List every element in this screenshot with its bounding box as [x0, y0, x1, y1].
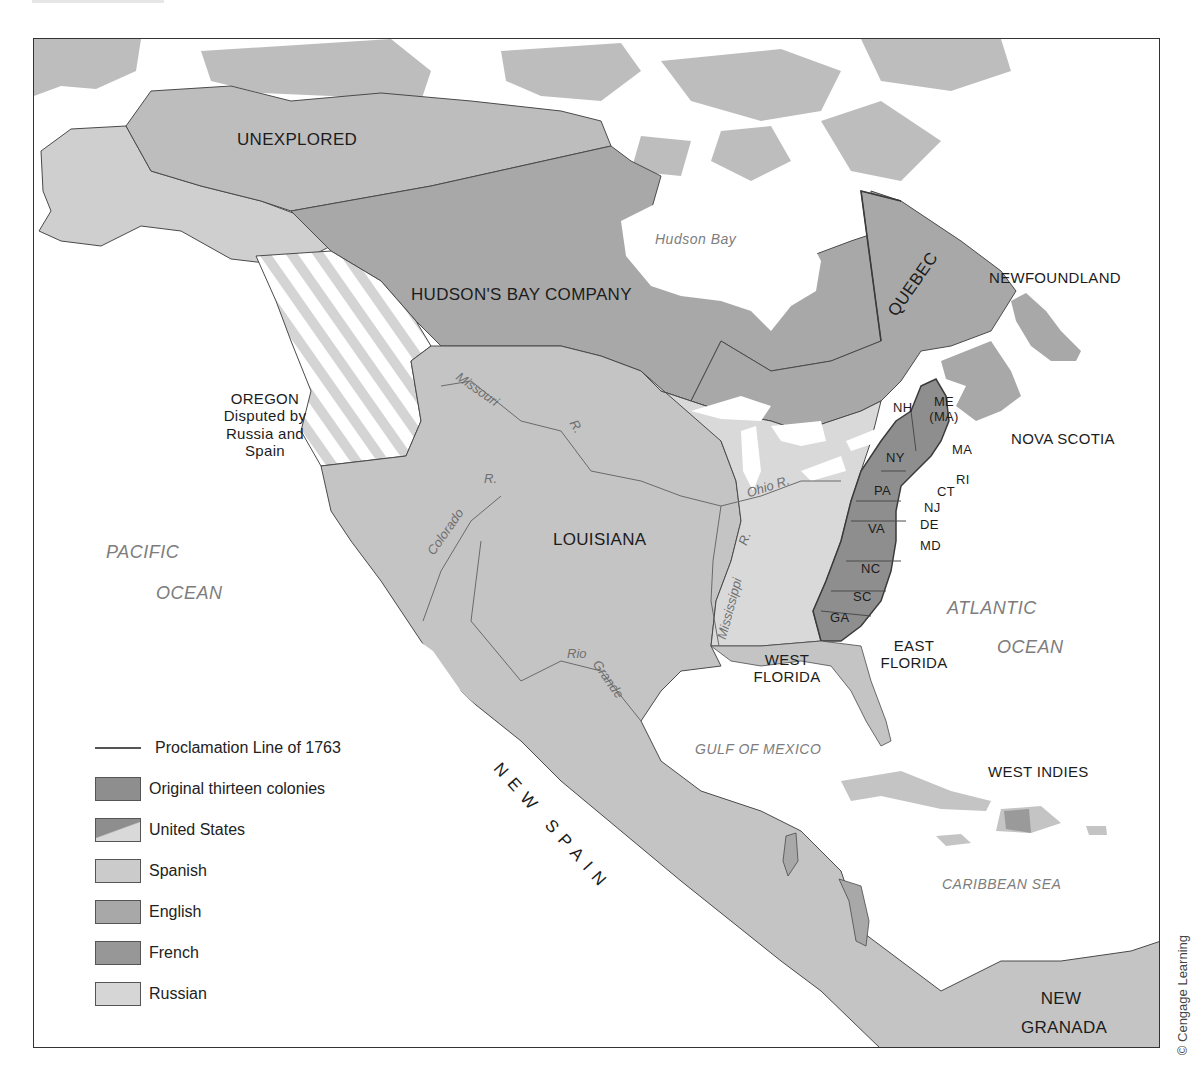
- copyright-credit: © Cengage Learning: [1175, 935, 1190, 1055]
- label-new-granada: NEW GRANADA: [1021, 985, 1101, 1043]
- oregon-note-line-1: Disputed by: [220, 407, 310, 424]
- original-colonies-swatch: [95, 777, 141, 801]
- caribbean-islands: [841, 771, 1107, 846]
- label-nj: NJ: [924, 501, 941, 516]
- label-ri: RI: [956, 473, 970, 488]
- label-caribbean-sea: CARIBBEAN SEA: [942, 876, 1061, 892]
- label-newfoundland: NEWFOUNDLAND: [989, 269, 1121, 286]
- label-unexplored: UNEXPLORED: [237, 130, 357, 150]
- french-swatch: [95, 941, 141, 965]
- legend-item-united-states: United States: [95, 809, 341, 850]
- label-louisiana: LOUISIANA: [553, 530, 646, 550]
- east-florida-line-2: FLORIDA: [874, 654, 954, 671]
- label-west-indies: WEST INDIES: [988, 763, 1089, 780]
- label-pa: PA: [874, 484, 891, 499]
- label-sc: SC: [853, 590, 872, 605]
- legend-label: Proclamation Line of 1763: [155, 739, 341, 757]
- me-line-1: ME: [924, 395, 964, 410]
- english-swatch: [95, 900, 141, 924]
- proclamation-line-swatch: [95, 747, 141, 749]
- label-nc: NC: [861, 562, 880, 577]
- west-florida-line-1: WEST: [747, 651, 827, 668]
- label-ct: CT: [937, 485, 955, 500]
- east-florida-line-1: EAST: [874, 637, 954, 654]
- legend-item-spanish: Spanish: [95, 850, 341, 891]
- label-pacific-1: PACIFIC: [106, 542, 179, 563]
- label-rio: Rio: [567, 646, 587, 661]
- label-east-florida: EAST FLORIDA: [874, 637, 954, 672]
- label-atlantic-2: OCEAN: [997, 637, 1064, 658]
- label-gulf-of-mexico: GULF OF MEXICO: [695, 741, 821, 757]
- new-granada-line-2: GRANADA: [1021, 1014, 1101, 1043]
- legend-item-original-colonies: Original thirteen colonies: [95, 768, 341, 809]
- oregon-title: OREGON: [220, 390, 310, 407]
- legend-label: Spanish: [149, 862, 207, 880]
- oregon-note-line-2: Russia and: [220, 425, 310, 442]
- legend-item-french: French: [95, 932, 341, 973]
- label-west-florida: WEST FLORIDA: [747, 651, 827, 686]
- legend-label: French: [149, 944, 199, 962]
- label-de: DE: [920, 518, 939, 533]
- top-rule: [32, 0, 164, 3]
- russian-swatch: [95, 982, 141, 1006]
- label-pacific-2: OCEAN: [156, 583, 223, 604]
- label-hudsons-bay-company: HUDSON'S BAY COMPANY: [411, 285, 632, 305]
- legend-item-russian: Russian: [95, 973, 341, 1014]
- oregon-note-line-3: Spain: [220, 442, 310, 459]
- label-ga: GA: [830, 611, 849, 626]
- legend-label: United States: [149, 821, 245, 839]
- label-va: VA: [868, 522, 885, 537]
- label-ny: NY: [886, 451, 905, 466]
- legend-item-english: English: [95, 891, 341, 932]
- new-granada-line-1: NEW: [1021, 985, 1101, 1014]
- label-md: MD: [920, 539, 941, 554]
- legend-label: Russian: [149, 985, 207, 1003]
- newfoundland-island: [1011, 293, 1081, 361]
- me-line-2: (MA): [924, 410, 964, 425]
- spanish-swatch: [95, 859, 141, 883]
- legend-label: English: [149, 903, 201, 921]
- label-ma: MA: [952, 443, 972, 458]
- west-florida-line-2: FLORIDA: [747, 668, 827, 685]
- label-colorado-r: R.: [484, 471, 497, 486]
- label-me: ME (MA): [924, 395, 964, 425]
- label-nh: NH: [893, 401, 912, 416]
- legend-label: Original thirteen colonies: [149, 780, 325, 798]
- map-legend: Proclamation Line of 1763 Original thirt…: [95, 727, 341, 1014]
- united-states-swatch: [95, 818, 141, 842]
- label-hudson-bay: Hudson Bay: [655, 231, 736, 247]
- label-nova-scotia: NOVA SCOTIA: [1011, 430, 1115, 447]
- label-oregon: OREGON Disputed by Russia and Spain: [220, 390, 310, 459]
- legend-item-proclamation-line: Proclamation Line of 1763: [95, 727, 341, 768]
- label-atlantic-1: ATLANTIC: [947, 598, 1037, 619]
